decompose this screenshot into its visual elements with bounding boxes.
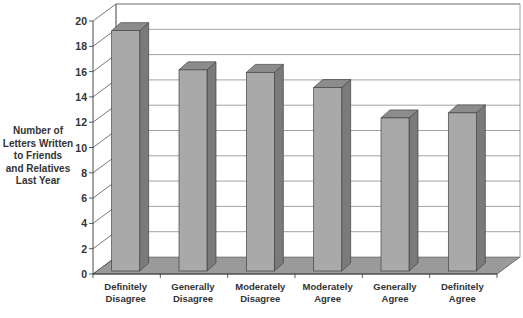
- y-tick-label: 10: [75, 142, 87, 154]
- bar: [314, 88, 342, 271]
- y-tick-label: 18: [75, 40, 87, 52]
- x-tick-label: DefinitelyDisagree: [104, 281, 147, 304]
- x-tick-label: ModeratelyAgree: [303, 281, 354, 304]
- bar: [246, 72, 274, 271]
- bar-side: [140, 23, 149, 271]
- bar-side: [207, 62, 216, 271]
- x-tick-label: GenerallyAgree: [373, 281, 417, 304]
- bar-side: [274, 64, 283, 271]
- x-tick-label: DefinitelyAgree: [441, 281, 484, 304]
- side-gridline: [93, 4, 116, 21]
- y-tick-label: 4: [81, 217, 87, 229]
- y-tick-label: 16: [75, 66, 87, 78]
- bar-side: [409, 110, 418, 271]
- y-tick-label: 0: [81, 268, 87, 280]
- bar: [179, 70, 207, 271]
- y-tick-label: 2: [81, 243, 87, 255]
- y-tick-label: 6: [81, 192, 87, 204]
- y-tick-label: 14: [75, 91, 87, 103]
- bar: [112, 31, 140, 271]
- bar: [448, 113, 476, 271]
- bar: [381, 118, 409, 271]
- bar-chart: 02468101214161820DefinitelyDisagreeGener…: [0, 0, 523, 318]
- x-tick-label: GenerallyDisagree: [171, 281, 215, 304]
- bar-side: [476, 105, 485, 271]
- y-tick-label: 8: [81, 167, 87, 179]
- bar-side: [342, 80, 351, 271]
- y-tick-label: 12: [75, 116, 87, 128]
- y-tick-label: 20: [75, 15, 87, 27]
- x-tick-label: ModeratelyDisagree: [235, 281, 286, 304]
